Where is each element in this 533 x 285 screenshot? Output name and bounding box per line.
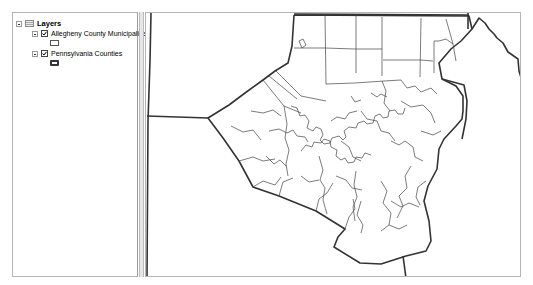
layer-visibility-checkbox[interactable] <box>41 50 48 57</box>
panel-splitter[interactable] <box>139 12 144 277</box>
checkmark-icon <box>42 31 47 36</box>
layer-row-allegheny-municipalities[interactable]: Allegheny County Municipalities <box>32 30 150 37</box>
layer-label: Pennsylvania Counties <box>51 50 122 57</box>
toc-root-row[interactable]: Layers <box>16 19 61 28</box>
table-of-contents-panel: Layers Allegheny County Municipalities P… <box>12 12 138 277</box>
map-view[interactable] <box>145 12 521 277</box>
municipal-boundaries <box>231 15 456 233</box>
layer-row-pennsylvania-counties[interactable]: Pennsylvania Counties <box>32 50 122 57</box>
county-boundaries <box>147 13 521 277</box>
polygon-symbol-thick-icon[interactable] <box>50 60 59 66</box>
checkmark-icon <box>42 51 47 56</box>
map-canvas[interactable] <box>146 13 521 277</box>
collapse-toggle-icon[interactable] <box>32 31 38 37</box>
layer-label: Allegheny County Municipalities <box>51 30 150 37</box>
layer-visibility-checkbox[interactable] <box>41 30 48 37</box>
layers-icon <box>25 20 34 27</box>
polygon-symbol-thin-icon[interactable] <box>50 40 59 46</box>
collapse-toggle-icon[interactable] <box>16 21 22 27</box>
collapse-toggle-icon[interactable] <box>32 51 38 57</box>
toc-root-label: Layers <box>37 19 61 28</box>
